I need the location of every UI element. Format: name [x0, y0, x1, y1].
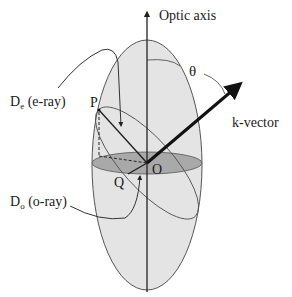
de-description: (e-ray)	[24, 94, 66, 109]
optic-axis-label: Optic axis	[159, 9, 216, 23]
point-o-label: O	[152, 163, 162, 177]
theta-leader	[204, 74, 225, 94]
do-description: (o-ray)	[25, 194, 67, 209]
de-symbol: D	[10, 94, 20, 109]
de-eray-label: De (e-ray)	[10, 95, 66, 111]
point-p-label: P	[90, 96, 98, 110]
do-oray-label: Do (o-ray)	[10, 195, 67, 211]
diagram-canvas	[0, 0, 292, 297]
index-ellipsoid-diagram: Optic axis θ k-vector De (e-ray) Do (o-r…	[0, 0, 292, 297]
point-q-label: Q	[114, 176, 124, 190]
do-symbol: D	[10, 194, 20, 209]
k-vector-label: k-vector	[232, 116, 279, 130]
theta-label: θ	[189, 64, 196, 79]
